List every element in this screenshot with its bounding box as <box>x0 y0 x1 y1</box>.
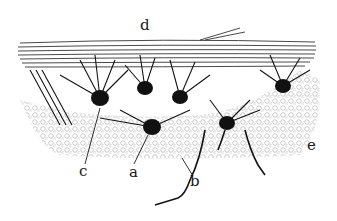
fiber-layer <box>18 28 316 67</box>
figure-label-d: d <box>140 18 150 33</box>
neuron-cell-body <box>91 90 109 106</box>
granular-layer <box>20 70 320 159</box>
neuron-cell-body <box>275 79 291 93</box>
figure-label-c: c <box>79 164 87 179</box>
figure-label-b: b <box>190 174 200 189</box>
figure-label-e: e <box>307 138 316 153</box>
neuron-cell-body <box>219 116 235 130</box>
figure-label-a: a <box>129 165 138 180</box>
neuron-cell-body <box>137 81 153 95</box>
neuron-cell-body <box>143 119 161 135</box>
neuron-illustration <box>0 0 337 221</box>
neuron-cell-body <box>172 90 188 104</box>
